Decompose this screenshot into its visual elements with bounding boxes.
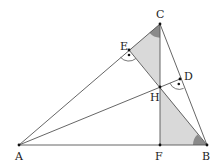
right-angle-mark-e: [121, 57, 136, 61]
point-b: [206, 144, 209, 147]
label-e: E: [120, 40, 128, 53]
right-angle-dot-e: [128, 54, 131, 57]
label-d: D: [184, 70, 193, 83]
point-h: [159, 86, 162, 89]
point-d: [179, 78, 182, 81]
label-f: F: [155, 150, 163, 163]
geometry-diagram: A B C D E F H: [0, 0, 222, 167]
label-c: C: [156, 8, 164, 21]
right-angle-dot-d: [178, 83, 181, 86]
altitude-ad: [19, 79, 180, 145]
point-a: [18, 144, 21, 147]
right-angle-mark-d: [170, 83, 184, 89]
label-h: H: [150, 91, 160, 104]
point-f: [159, 144, 162, 147]
label-a: A: [14, 150, 24, 163]
point-c: [159, 23, 162, 26]
segment-ac: [19, 24, 160, 145]
label-b: B: [202, 150, 210, 163]
